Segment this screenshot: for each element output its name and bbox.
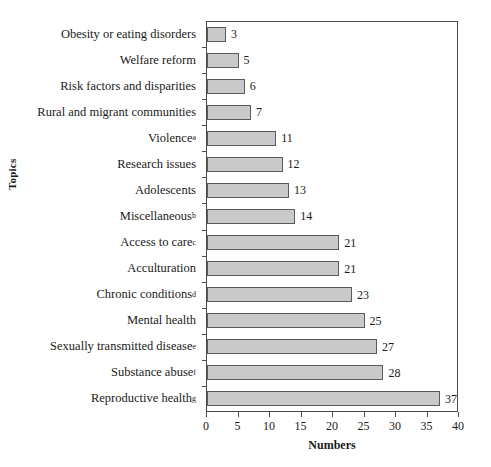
x-axis-tick: [364, 412, 365, 417]
x-axis-tick-label: 0: [191, 419, 221, 434]
x-axis-tick-label: 5: [223, 419, 253, 434]
x-axis-tick: [269, 412, 270, 417]
x-axis-tick: [332, 412, 333, 417]
x-axis-tick-label: 20: [317, 419, 347, 434]
x-axis-tick-label: 10: [254, 419, 284, 434]
x-axis-tick: [427, 412, 428, 417]
x-axis-tick: [301, 412, 302, 417]
bar-chart: Topics Obesity or eating disorders3Welfa…: [0, 0, 491, 467]
x-axis-tick: [458, 412, 459, 417]
x-axis-ticks: 0510152025303540: [0, 0, 491, 467]
x-axis-tick-label: 15: [286, 419, 316, 434]
x-axis-tick: [238, 412, 239, 417]
x-axis-tick: [206, 412, 207, 417]
x-axis-tick-label: 25: [349, 419, 379, 434]
x-axis-title: Numbers: [206, 438, 458, 453]
x-axis-tick-label: 35: [412, 419, 442, 434]
x-axis-tick-label: 40: [443, 419, 473, 434]
x-axis-tick: [395, 412, 396, 417]
x-axis-tick-label: 30: [380, 419, 410, 434]
